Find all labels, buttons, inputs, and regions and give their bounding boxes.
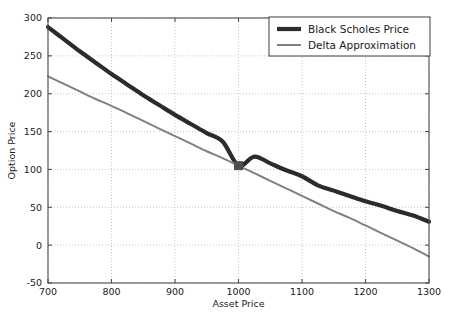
x-tick-label: 1100: [290, 286, 314, 297]
y-tick-label: 250: [24, 50, 42, 61]
tangency-point-marker: [234, 161, 243, 170]
x-tick-label: 900: [166, 286, 184, 297]
chart-legend: Black Scholes PriceDelta Approximation: [269, 17, 430, 56]
chart-canvas: 7008009001000110012001300-50050100150200…: [0, 0, 450, 324]
y-tick-label: 200: [24, 88, 42, 99]
y-tick-label: -50: [26, 277, 42, 288]
y-tick-label: 300: [24, 12, 42, 23]
x-tick-label: 800: [102, 286, 120, 297]
y-tick-label: 50: [30, 202, 42, 213]
y-axis-title: Option Price: [6, 121, 17, 179]
legend-label-0: Black Scholes Price: [308, 23, 409, 35]
y-tick-label: 0: [36, 240, 42, 251]
y-tick-label: 100: [24, 164, 42, 175]
y-tick-label: 150: [24, 126, 42, 137]
x-tick-label: 1000: [226, 286, 250, 297]
gridlines: [48, 18, 429, 283]
x-tick-label: 1300: [417, 286, 441, 297]
x-tick-label: 1200: [353, 286, 377, 297]
x-axis-title: Asset Price: [212, 298, 264, 309]
chart-figure: 7008009001000110012001300-50050100150200…: [0, 0, 450, 324]
data-markers: [234, 161, 243, 170]
legend-label-1: Delta Approximation: [308, 39, 416, 51]
